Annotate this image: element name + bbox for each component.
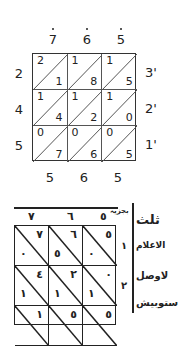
arabic-cell: ٠ ١: [83, 266, 117, 306]
margin-text: الاعلام: [136, 240, 165, 250]
left-digit: 4: [12, 103, 26, 117]
right-label: 2': [145, 101, 157, 116]
row-label: ١: [121, 240, 127, 251]
lattice-cell: 0 6: [68, 126, 103, 162]
arabic-cell: ٥: [49, 306, 83, 346]
dot-mark: [52, 28, 54, 30]
header-rule: [14, 207, 118, 209]
arabic-cell: ٤ ١: [15, 266, 49, 306]
lattice-cell: 1 5: [102, 54, 137, 90]
dot-mark: [120, 28, 122, 30]
bottom-digit: 5: [111, 171, 125, 185]
arabic-top-digit: ٥: [100, 210, 107, 223]
lattice-cell: 0 7: [33, 126, 68, 162]
arabic-cell: ٥: [83, 306, 117, 346]
margin-text: ستوبيش: [136, 297, 178, 308]
header-note: بجزیہ: [110, 207, 129, 215]
arabic-top-digit: ٧: [28, 210, 35, 223]
arabic-cell: ٥ ٠: [83, 226, 117, 266]
margin-text: لاوصل: [136, 270, 168, 281]
top-digit: 6: [80, 33, 94, 47]
bottom-digit: 6: [77, 171, 91, 185]
dot-mark: [86, 28, 88, 30]
right-label: 3': [145, 65, 157, 80]
lattice-cell: 1 2: [68, 90, 103, 126]
margin-text: ثلث: [136, 212, 160, 227]
left-digit: 2: [12, 67, 26, 81]
arabic-lattice-grid: ٧ ٠ ٦ ٥ ٥ ٠ ٤ ١ ٢ ١ ٠ ١ ١: [14, 225, 116, 325]
right-label: 1': [145, 137, 157, 152]
arabic-cell: ١: [15, 306, 49, 346]
margin-rule: [132, 203, 134, 313]
lattice-cell: 0 5: [102, 126, 137, 162]
arabic-cell: ٢ ١: [49, 266, 83, 306]
top-digit: 5: [114, 33, 128, 47]
arabic-top-digit: ٦: [67, 210, 74, 223]
bottom-digit: 5: [43, 171, 57, 185]
top-digit: 7: [46, 33, 60, 47]
arabic-cell: ٦ ٥: [49, 226, 83, 266]
lattice-cell: 2 1: [33, 54, 68, 90]
left-digit: 5: [12, 139, 26, 153]
lattice-grid: 2 1 1 8 1 5 1 4 1 2 1 0: [32, 53, 136, 161]
lattice-cell: 1 4: [33, 90, 68, 126]
arabic-cell: ٧ ٠: [15, 226, 49, 266]
lattice-cell: 1 8: [68, 54, 103, 90]
row-label: ٢: [121, 280, 127, 291]
lattice-cell: 1 0: [102, 90, 137, 126]
